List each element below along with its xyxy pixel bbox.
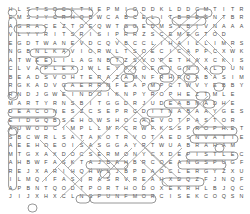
grid-cell: S <box>130 48 139 57</box>
grid-cell: T <box>157 108 166 117</box>
grid-cell: P <box>210 125 219 134</box>
grid-cell: I <box>157 39 166 48</box>
grid-cell: C <box>175 48 184 57</box>
grid-cell: R <box>24 22 33 31</box>
grid-cell: N <box>139 73 148 82</box>
grid-cell: V <box>77 39 86 48</box>
grid-cell: L <box>95 65 104 74</box>
grid-cell: R <box>77 31 86 40</box>
grid-cell: O <box>139 193 148 202</box>
grid-cell: A <box>157 65 166 74</box>
grid-cell: D <box>219 31 228 40</box>
grid-cell: I <box>157 14 166 23</box>
grid-cell: T <box>237 125 246 134</box>
grid-cell: V <box>202 133 211 142</box>
grid-cell: A <box>193 108 202 117</box>
grid-cell: A <box>50 39 59 48</box>
grid-cell: N <box>210 22 219 31</box>
grid-cell: B <box>15 133 24 142</box>
grid-cell: A <box>113 159 122 168</box>
grid-cell: P <box>113 125 122 134</box>
grid-cell: E <box>15 167 24 176</box>
grid-cell: C <box>122 125 131 134</box>
grid-cell: O <box>104 133 113 142</box>
grid-cell: P <box>95 193 104 202</box>
grid-cell: S <box>68 99 77 108</box>
grid-cell: W <box>50 90 59 99</box>
grid-cell: D <box>166 150 175 159</box>
grid-cell: E <box>166 159 175 168</box>
grid-cell: E <box>166 31 175 40</box>
grid-cell: A <box>59 176 68 185</box>
grid-cell: A <box>148 167 157 176</box>
grid-cell: S <box>68 31 77 40</box>
grid-cell: D <box>148 5 157 14</box>
grid-cell: G <box>202 167 211 176</box>
grid-cell: H <box>210 142 219 151</box>
grid-cell: U <box>228 65 237 74</box>
grid-cell: X <box>157 184 166 193</box>
grid-cell: G <box>130 22 139 31</box>
grid-cell: S <box>175 125 184 134</box>
grid-cell: B <box>24 159 33 168</box>
grid-cell: B <box>104 159 113 168</box>
grid-cell: R <box>139 142 148 151</box>
grid-cell: H <box>42 193 51 202</box>
grid-cell: B <box>86 14 95 23</box>
grid-cell: M <box>219 39 228 48</box>
grid-cell: T <box>33 39 42 48</box>
grid-cell: N <box>113 193 122 202</box>
grid-cell: G <box>104 99 113 108</box>
grid-cell: O <box>50 5 59 14</box>
grid-cell: P <box>193 48 202 57</box>
grid-cell: C <box>130 116 139 125</box>
grid-cell: F <box>42 159 51 168</box>
grid-cell: L <box>210 65 219 74</box>
grid-cell: R <box>228 39 237 48</box>
grid-cell: P <box>202 48 211 57</box>
grid-cell: M <box>113 150 122 159</box>
grid-cell: Q <box>33 176 42 185</box>
grid-cell: V <box>130 133 139 142</box>
grid-cell: V <box>139 56 148 65</box>
grid-cell: O <box>122 116 131 125</box>
grid-cell: S <box>130 56 139 65</box>
grid-cell: B <box>210 184 219 193</box>
grid-cell: C <box>104 14 113 23</box>
grid-cell: G <box>193 31 202 40</box>
grid-cell: N <box>59 99 68 108</box>
grid-cell: T <box>210 116 219 125</box>
grid-cell: J <box>24 167 33 176</box>
grid-cell: M <box>157 22 166 31</box>
grid-cell: U <box>148 99 157 108</box>
grid-cell: V <box>122 176 131 185</box>
grid-cell: N <box>237 193 246 202</box>
grid-cell: E <box>228 108 237 117</box>
grid-cell: G <box>86 56 95 65</box>
grid-cell: B <box>122 14 131 23</box>
grid-cell: G <box>113 99 122 108</box>
grid-cell: R <box>237 5 246 14</box>
grid-cell: E <box>175 150 184 159</box>
grid-cell: P <box>139 82 148 91</box>
grid-cell: O <box>157 159 166 168</box>
grid-cell: C <box>50 125 59 134</box>
grid-cell: N <box>86 5 95 14</box>
grid-cell: E <box>95 150 104 159</box>
grid-cell: T <box>202 90 211 99</box>
grid-cell: E <box>59 90 68 99</box>
grid-cell: S <box>166 22 175 31</box>
grid-cell: H <box>175 90 184 99</box>
grid-cell: K <box>157 5 166 14</box>
grid-cell: T <box>113 184 122 193</box>
grid-cell: T <box>175 82 184 91</box>
grid-cell: H <box>219 125 228 134</box>
grid-cell: N <box>193 99 202 108</box>
grid-cell: R <box>113 176 122 185</box>
grid-cell: S <box>228 193 237 202</box>
grid-cell: X <box>68 65 77 74</box>
grid-cell: O <box>202 125 211 134</box>
grid-cell: I <box>50 31 59 40</box>
grid-cell: J <box>139 99 148 108</box>
grid-cell: I <box>86 99 95 108</box>
